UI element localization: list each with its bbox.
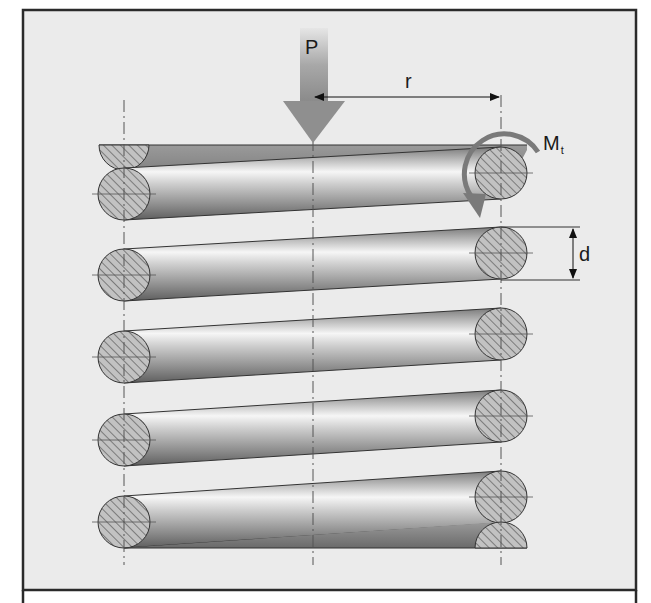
load-label: P	[305, 36, 318, 58]
spring-diagram: P r Mt d	[0, 0, 651, 603]
radius-label: r	[405, 70, 412, 92]
wire-diameter-label: d	[579, 243, 590, 265]
